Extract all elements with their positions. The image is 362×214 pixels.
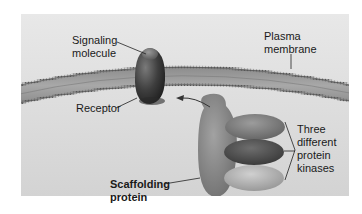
- label-signaling-molecule-1: Signaling: [72, 34, 117, 46]
- label-kinases-4: kinases: [297, 162, 335, 174]
- label-kinases-1: Three: [297, 123, 326, 135]
- label-plasma-membrane-1: Plasma: [264, 30, 302, 42]
- label-kinases-2: different: [297, 136, 337, 148]
- signaling-molecule: [142, 48, 158, 60]
- label-signaling-molecule-2: molecule: [72, 47, 116, 59]
- receptor-shadow: [139, 97, 165, 105]
- label-scaffolding-protein-1: Scaffolding: [110, 178, 170, 190]
- kinase-2: [224, 139, 284, 165]
- label-plasma-membrane-2: membrane: [264, 43, 317, 55]
- label-kinases-3: protein: [297, 149, 331, 161]
- diagram-canvas: Signaling molecule Plasma membrane Recep…: [0, 0, 362, 214]
- kinase-3: [224, 165, 284, 191]
- label-receptor: Receptor: [76, 102, 121, 114]
- protein-kinases: [224, 114, 285, 191]
- label-scaffolding-protein-2: protein: [110, 191, 148, 203]
- kinase-1: [225, 114, 285, 140]
- scaffolding-protein-diagram: Signaling molecule Plasma membrane Recep…: [0, 0, 362, 214]
